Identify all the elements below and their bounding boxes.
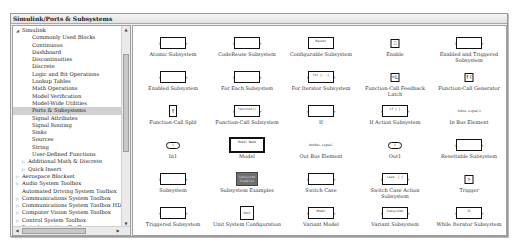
tree-item[interactable]: String (13, 144, 121, 151)
block-icon[interactable]: InBus.signal1 (457, 108, 481, 114)
block-configurable-subsystem[interactable]: MasterConfigurable Subsystem (284, 29, 358, 59)
block-icon[interactable]: case: { }›› (382, 173, 408, 185)
block-unit-system-configuration[interactable]: UnitUnit System Configuration (210, 199, 284, 229)
tree-item[interactable]: Dashboard (13, 49, 121, 56)
block-icon[interactable]: ›› (234, 37, 260, 49)
scroll-up-icon[interactable]: ▲ (122, 26, 130, 33)
block-subsystem-examples[interactable]: Subsystem ExamplesSubsystem Examples (210, 165, 284, 195)
block-enabled-subsystem[interactable]: ››Enabled Subsystem (136, 63, 210, 93)
tree-item[interactable]: ▷Communications System Toolbox HDL S (13, 202, 121, 209)
block-function-call-subsystem[interactable]: function()››Function-Call Subsystem (210, 97, 284, 127)
block-icon[interactable]: IC›› (456, 207, 482, 219)
collapsed-arrow-icon[interactable]: ▷ (16, 173, 19, 180)
tree-item[interactable]: Sources (13, 136, 121, 143)
block-if-action-subsystem[interactable]: if { }››If Action Subsystem (358, 97, 432, 127)
block-for-each-subsystem[interactable]: ››For Each Subsystem (210, 63, 284, 93)
block-triggered-subsystem[interactable]: ››Triggered Subsystem (136, 199, 210, 229)
block-icon[interactable]: ›› (456, 37, 482, 49)
block-icon[interactable]: ›› (308, 105, 334, 117)
scroll-left-icon[interactable]: ◀ (13, 227, 21, 235)
collapsed-arrow-icon[interactable]: ▷ (16, 195, 19, 202)
block-variant-model[interactable]: Model››Variant Model (284, 199, 358, 229)
block-icon[interactable]: function()›› (234, 105, 260, 117)
block-switch-case-action-subsystem[interactable]: case: { }››Switch Case Action Subsystem (358, 165, 432, 195)
tree-item[interactable]: Continuous (13, 42, 121, 49)
block-resettable-subsystem[interactable]: ››Resettable Subsystem (432, 131, 506, 161)
tree-item[interactable]: Discontinuities (13, 56, 121, 63)
block-codereuse-subsystem[interactable]: ››CodeReuse Subsystem (210, 29, 284, 59)
block-icon[interactable]: ›› (160, 37, 186, 49)
tree-item[interactable]: ▷Quick Insert (13, 166, 121, 173)
block-icon[interactable]: Master (308, 37, 334, 49)
expanded-arrow-icon[interactable]: ◢ (16, 27, 19, 34)
tree-item[interactable]: ▷Audio System Toolbox (13, 180, 121, 187)
block-variant-subsystem[interactable]: Subsystem››Variant Subsystem (358, 199, 432, 229)
collapsed-arrow-icon[interactable]: ▷ (16, 209, 19, 216)
scroll-thumb-horizontal[interactable] (22, 228, 86, 234)
tree-item[interactable]: Signal Routing (13, 122, 121, 129)
block-icon[interactable]: ›› (456, 139, 482, 151)
tree-item[interactable]: ▷Computer Vision System Toolbox (13, 209, 121, 216)
block-icon[interactable]: for {...}›› (308, 71, 334, 83)
block-icon[interactable]: if { }›› (382, 105, 408, 117)
tree-item[interactable]: Discrete (13, 63, 121, 70)
block-icon[interactable]: Subsystem Examples (236, 172, 258, 186)
block-icon[interactable]: f (169, 105, 177, 117)
tree-item[interactable]: Lookup Tables (13, 78, 121, 85)
collapsed-arrow-icon[interactable]: ▷ (22, 166, 25, 173)
tree-item[interactable]: Signal Attributes (13, 115, 121, 122)
tree-item[interactable]: Automated Driving System Toolbox (13, 188, 121, 195)
block-for-iterator-subsystem[interactable]: for {...}››For Iterator Subsystem (284, 63, 358, 93)
block-enabled-and-triggered-subsystem[interactable]: ››Enabled and Triggered Subsystem (432, 29, 506, 59)
collapsed-arrow-icon[interactable]: ▷ (16, 180, 19, 187)
tree-item[interactable]: Ports & Subsystems (13, 107, 121, 114)
tree-item[interactable]: Model-Wide Utilities (13, 100, 121, 107)
block-while-iterator-subsystem[interactable]: IC››While Iterator Subsystem (432, 199, 506, 229)
block-icon[interactable]: ›› (160, 173, 186, 185)
block-out-bus-element[interactable]: OutBus.signal1Out Bus Element (284, 131, 358, 161)
block-in-bus-element[interactable]: InBus.signal1In Bus Element (432, 97, 506, 127)
block-icon[interactable]: 1 (388, 142, 402, 149)
block-function-call-split[interactable]: fFunction-Call Split (136, 97, 210, 127)
block-icon[interactable]: <Lat> (391, 73, 400, 82)
block-icon[interactable]: ›› (160, 207, 186, 219)
scroll-thumb[interactable] (123, 54, 129, 152)
block-switch-case[interactable]: ››Switch Case (284, 165, 358, 195)
tree-item[interactable]: Math Operations (13, 85, 121, 92)
block-icon[interactable]: 1 (166, 142, 180, 149)
tree-item[interactable]: ▷Additional Math & Discrete (13, 158, 121, 165)
tree-item[interactable]: ▷Aerospace Blockset (13, 173, 121, 180)
block-icon[interactable]: f() (465, 73, 474, 82)
tree-item[interactable]: Logic and Bit Operations (13, 71, 121, 78)
block-if[interactable]: ››If (284, 97, 358, 127)
tree-item[interactable]: Model Verification (13, 93, 121, 100)
block-model[interactable]: Model NameModel (210, 131, 284, 161)
block-icon[interactable]: ›› (308, 173, 334, 185)
block-in1[interactable]: 1In1 (136, 131, 210, 161)
block-icon[interactable]: ›› (160, 71, 186, 83)
block-icon[interactable]: Unit (240, 206, 254, 220)
block-out1[interactable]: 1Out1 (358, 131, 432, 161)
block-icon[interactable]: Model›› (308, 207, 334, 219)
collapsed-arrow-icon[interactable]: ▷ (16, 202, 19, 209)
block-enable[interactable]: ⎍Enable (358, 29, 432, 59)
tree-item[interactable]: Commonly Used Blocks (13, 34, 121, 41)
tree-item[interactable]: ▷Control System Toolbox (13, 217, 121, 224)
tree-item[interactable]: User-Defined Functions (13, 151, 121, 158)
scroll-right-icon[interactable]: ▶ (114, 227, 122, 235)
block-icon[interactable]: ⎍ (391, 39, 400, 48)
block-subsystem[interactable]: ››Subsystem (136, 165, 210, 195)
block-icon[interactable]: Model Name (229, 137, 265, 153)
tree-item[interactable]: Sinks (13, 129, 121, 136)
block-trigger[interactable]: ⚡Trigger (432, 165, 506, 195)
collapsed-arrow-icon[interactable]: ▷ (16, 217, 19, 224)
tree-item[interactable]: ▷Communications System Toolbox (13, 195, 121, 202)
tree-item[interactable]: ◢Simulink (13, 27, 121, 34)
block-function-call-generator[interactable]: f()Function-Call Generator (432, 63, 506, 93)
block-function-call-feedback-latch[interactable]: <Lat>Function-Call Feedback Latch (358, 63, 432, 93)
block-atomic-subsystem[interactable]: ››Atomic Subsystem (136, 29, 210, 59)
tree-vertical-scrollbar[interactable]: ▲ ▼ (121, 26, 130, 227)
collapsed-arrow-icon[interactable]: ▷ (22, 158, 25, 165)
block-icon[interactable]: Subsystem›› (382, 207, 408, 219)
block-icon[interactable]: OutBus.signal1 (309, 142, 333, 148)
